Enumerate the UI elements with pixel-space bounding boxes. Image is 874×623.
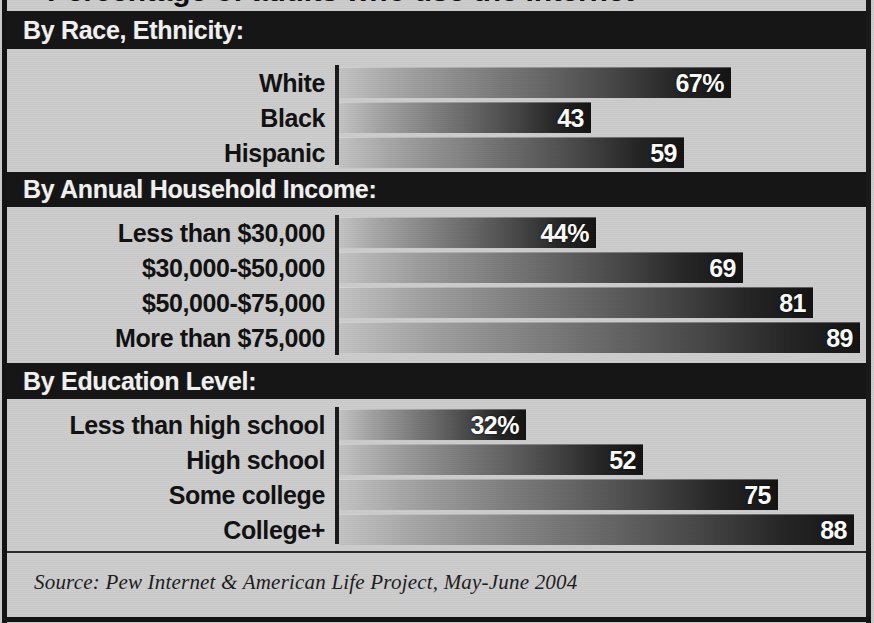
- bar: 88: [339, 514, 854, 545]
- section-header-education: By Education Level:: [7, 363, 866, 399]
- chart-figure: Percentage of adults who use the Interne…: [0, 0, 874, 623]
- bar: 59: [339, 137, 684, 168]
- bar-category-label: College+: [7, 516, 325, 545]
- bar: 89: [339, 322, 860, 353]
- bar-row: Some college75: [7, 479, 866, 510]
- bar: 32%: [339, 409, 526, 440]
- frame-border-bottom: [2, 617, 871, 622]
- bar-value-label: 81: [779, 288, 806, 317]
- bar-category-label: $30,000-$50,000: [7, 254, 325, 283]
- bar: 75: [339, 479, 778, 510]
- bar-fill: 59: [339, 137, 684, 168]
- bar: 52: [339, 444, 643, 475]
- bar-fill: 52: [339, 444, 643, 475]
- plot-panel-education: Less than high school32%High school52Som…: [7, 399, 866, 550]
- bar-fill: 43: [339, 102, 591, 133]
- source-note: Source: Pew Internet & American Life Pro…: [34, 570, 577, 595]
- bar-fill: 75: [339, 479, 778, 510]
- plot-panel-race: White67%Black43Hispanic59: [7, 49, 866, 172]
- bar-fill: 81: [339, 287, 813, 318]
- bar-fill: 69: [339, 252, 743, 283]
- bar-fill: 44%: [339, 217, 596, 248]
- bar: 44%: [339, 217, 596, 248]
- bar-row: $50,000-$75,00081: [7, 287, 866, 318]
- bar-category-label: $50,000-$75,000: [7, 289, 325, 318]
- bar-value-label: 69: [709, 253, 736, 282]
- bar-row: College+88: [7, 514, 866, 545]
- bar: 67%: [339, 67, 731, 98]
- bar: 69: [339, 252, 743, 283]
- bar-category-label: White: [7, 69, 325, 98]
- source-divider: [7, 551, 866, 553]
- bar-row: $30,000-$50,00069: [7, 252, 866, 283]
- bar-row: White67%: [7, 67, 866, 98]
- bar: 81: [339, 287, 813, 318]
- bar-fill: 88: [339, 514, 854, 545]
- bar-value-label: 32%: [470, 410, 519, 439]
- bar-row: High school52: [7, 444, 866, 475]
- bar-row: Less than $30,00044%: [7, 217, 866, 248]
- bar-fill: 89: [339, 322, 860, 353]
- section-header-race: By Race, Ethnicity:: [7, 11, 866, 49]
- frame-border-right: [866, 0, 871, 623]
- bar-category-label: Some college: [7, 481, 325, 510]
- bar-row: Black43: [7, 102, 866, 133]
- bar-value-label: 88: [820, 515, 847, 544]
- bar: 43: [339, 102, 591, 133]
- bar-fill: 67%: [339, 67, 731, 98]
- plot-panel-income: Less than $30,00044%$30,000-$50,00069$50…: [7, 207, 866, 363]
- bar-value-label: 89: [826, 323, 853, 352]
- bar-row: Hispanic59: [7, 137, 866, 168]
- bar-fill: 32%: [339, 409, 526, 440]
- bar-row: Less than high school32%: [7, 409, 866, 440]
- chart-title: Percentage of adults who use the Interne…: [47, 0, 634, 8]
- bar-category-label: More than $75,000: [7, 324, 325, 353]
- bar-value-label: 75: [744, 480, 771, 509]
- bar-value-label: 59: [650, 138, 677, 167]
- bar-category-label: Hispanic: [7, 139, 325, 168]
- section-header-income: By Annual Household Income:: [7, 172, 866, 207]
- bar-category-label: High school: [7, 446, 325, 475]
- bar-category-label: Less than $30,000: [7, 219, 325, 248]
- chart-title-cropped: Percentage of adults who use the Interne…: [7, 0, 866, 9]
- bar-category-label: Less than high school: [7, 411, 325, 440]
- bar-row: More than $75,00089: [7, 322, 866, 353]
- bar-value-label: 67%: [675, 68, 724, 97]
- bar-value-label: 44%: [540, 218, 589, 247]
- bar-value-label: 52: [609, 445, 636, 474]
- bar-value-label: 43: [557, 103, 584, 132]
- bar-category-label: Black: [7, 104, 325, 133]
